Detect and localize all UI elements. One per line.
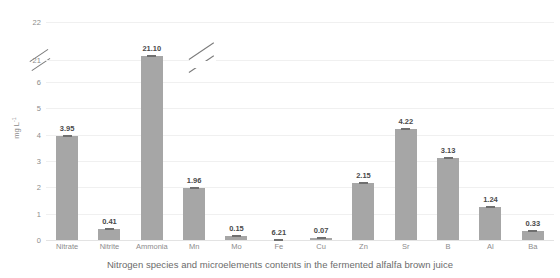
x-tick-label-zn: Zn <box>342 242 384 251</box>
x-tick-label-nitrite: Nitrite <box>88 242 130 251</box>
y-axis-title-text: mg L <box>12 122 21 139</box>
y-tick-label-0: 0 <box>37 236 41 245</box>
bar-slot-ba: 0.33 <box>512 14 554 240</box>
y-axis-title-exponent: -1 <box>11 117 17 122</box>
y-axis-title: mg L-1 <box>11 117 22 139</box>
y-tick-label-22: 22 <box>32 18 41 27</box>
bar-nitrate[interactable]: 3.95 <box>56 136 78 240</box>
y-tick-label-5: 5 <box>37 104 41 113</box>
bar-value-label-ba: 0.33 <box>525 219 540 228</box>
error-bar-b <box>444 157 453 159</box>
bar-slot-nitrite: 0.41 <box>88 14 130 240</box>
bar-mo[interactable]: 0.15 <box>225 236 247 240</box>
y-tick-label-4: 4 <box>37 130 41 139</box>
y-tick-label-21: 21 <box>32 56 41 65</box>
bar-value-label-mo: 0.15 <box>229 224 244 233</box>
error-bar-mo <box>232 235 241 237</box>
gridline-0: 0 <box>46 240 554 241</box>
bar-slot-b: 3.13 <box>427 14 469 240</box>
x-tick-label-nitrate: Nitrate <box>46 242 88 251</box>
bar-slot-fe: 6.21 <box>258 14 300 240</box>
bar-value-label-zn: 2.15 <box>356 171 371 180</box>
ammonia-break-gap-2 <box>190 61 216 68</box>
bar-slot-nitrate: 3.95 <box>46 14 88 240</box>
figure: mg L-1 01234562122 3.950.4121.101.960.15… <box>0 0 560 278</box>
x-tick-label-cu: Cu <box>300 242 342 251</box>
x-tick-label-al: Al <box>469 242 511 251</box>
bar-value-label-nitrate: 3.95 <box>60 124 75 133</box>
bar-value-label-nitrite: 0.41 <box>102 217 117 226</box>
error-bar-nitrate <box>63 135 72 137</box>
bar-mn[interactable]: 1.96 <box>183 188 205 240</box>
x-tick-label-fe: Fe <box>258 242 300 251</box>
bar-chart: mg L-1 01234562122 3.950.4121.101.960.15… <box>0 0 560 256</box>
bar-b[interactable]: 3.13 <box>437 158 459 240</box>
error-bar-nitrite <box>105 228 114 230</box>
error-bar-cu <box>317 237 326 239</box>
bar-slot-ammonia: 21.10 <box>131 14 173 240</box>
bar-al[interactable]: 1.24 <box>479 207 501 240</box>
bar-slot-al: 1.24 <box>469 14 511 240</box>
error-bar-sr <box>401 128 410 130</box>
bar-value-label-al: 1.24 <box>483 195 498 204</box>
bar-slot-cu: 0.07 <box>300 14 342 240</box>
bar-value-label-ammonia: 21.10 <box>142 44 161 53</box>
bar-slot-mo: 0.15 <box>215 14 257 240</box>
bar-zn[interactable]: 2.15 <box>352 183 374 240</box>
x-tick-label-mo: Mo <box>215 242 257 251</box>
plot-area: 01234562122 3.950.4121.101.960.156.210.0… <box>46 14 554 240</box>
bar-ba[interactable]: 0.33 <box>522 231 544 240</box>
bar-series: 3.950.4121.101.960.156.210.072.154.223.1… <box>46 14 554 240</box>
y-tick-label-1: 1 <box>37 209 41 218</box>
x-tick-label-ba: Ba <box>512 242 554 251</box>
bar-value-label-fe: 6.21 <box>271 228 286 237</box>
bar-value-label-b: 3.13 <box>441 146 456 155</box>
error-bar-al <box>486 206 495 208</box>
x-tick-label-ammonia: Ammonia <box>131 242 173 251</box>
bar-value-label-cu: 0.07 <box>314 226 329 235</box>
bar-cu[interactable]: 0.07 <box>310 238 332 240</box>
x-axis-labels: NitrateNitriteAmmoniaMnMoFeCuZnSrBAlBa <box>46 242 554 251</box>
bar-value-label-sr: 4.22 <box>398 117 413 126</box>
bar-slot-zn: 2.15 <box>342 14 384 240</box>
x-tick-label-mn: Mn <box>173 242 215 251</box>
error-bar-ba <box>528 230 537 232</box>
bar-ammonia[interactable]: 21.10 <box>141 56 163 240</box>
figure-caption: Nitrogen species and microelements conte… <box>0 259 560 270</box>
y-tick-label-2: 2 <box>37 183 41 192</box>
x-tick-label-b: B <box>427 242 469 251</box>
y-tick-label-6: 6 <box>37 78 41 87</box>
x-tick-label-sr: Sr <box>385 242 427 251</box>
bar-nitrite[interactable]: 0.41 <box>98 229 120 240</box>
error-bar-mn <box>190 187 199 189</box>
bar-value-label-mn: 1.96 <box>187 176 202 185</box>
bar-slot-sr: 4.22 <box>385 14 427 240</box>
error-bar-zn <box>359 182 368 184</box>
error-bar-ammonia <box>147 55 156 57</box>
error-bar-fe <box>274 239 283 241</box>
y-tick-label-3: 3 <box>37 157 41 166</box>
bar-sr[interactable]: 4.22 <box>395 129 417 240</box>
